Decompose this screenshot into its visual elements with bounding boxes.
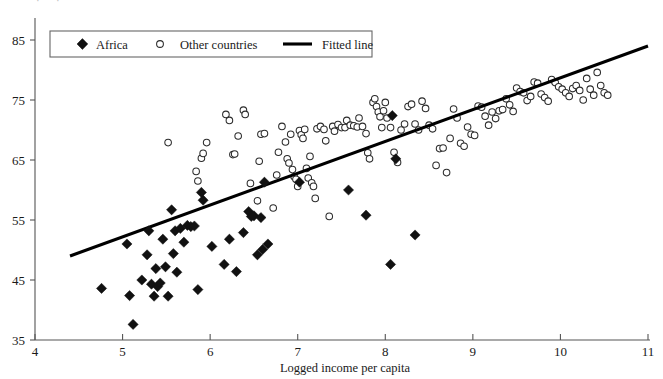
chart-page: · · 354555657585 4567891011 Logged incom… (0, 0, 663, 379)
data-point-other-country (247, 180, 254, 187)
data-point-other-country (408, 101, 415, 108)
data-point-other-country (200, 150, 207, 157)
data-point-africa (124, 291, 134, 301)
legend-marker-open-circle (157, 41, 164, 48)
data-point-other-country (326, 213, 333, 220)
data-point-other-country (223, 111, 230, 118)
data-point-other-country (310, 183, 317, 190)
data-point-africa (207, 241, 217, 251)
data-point-other-country (461, 143, 468, 150)
data-point-other-country (195, 178, 202, 185)
data-point-other-country (378, 124, 385, 131)
data-point-other-country (492, 115, 499, 122)
data-point-other-country (363, 130, 370, 137)
data-point-other-country (366, 156, 373, 163)
data-point-other-country (412, 121, 419, 128)
data-point-other-country (485, 122, 492, 129)
data-point-africa (196, 187, 206, 197)
data-point-other-country (273, 172, 280, 179)
data-point-other-country (499, 106, 506, 113)
data-point-other-country (597, 82, 604, 89)
data-point-africa (122, 239, 132, 249)
data-point-africa (198, 195, 208, 205)
axes-group (35, 18, 650, 340)
data-point-africa (128, 319, 138, 329)
y-axis-ticks: 354555657585 (12, 33, 35, 348)
data-point-other-country (286, 160, 293, 167)
x-tick-label-4: 4 (32, 344, 39, 359)
x-tick-label-10: 10 (554, 344, 567, 359)
data-point-other-country (380, 108, 387, 115)
data-point-africa (158, 234, 168, 244)
data-point-other-country (443, 169, 450, 176)
data-point-other-country (287, 131, 294, 138)
data-point-other-country (359, 123, 366, 130)
data-point-other-country (433, 162, 440, 169)
fitted-line-path (70, 46, 648, 256)
data-point-other-country (527, 93, 534, 100)
series-africa (96, 111, 420, 330)
data-point-other-country (482, 113, 489, 120)
data-point-other-country (440, 145, 447, 152)
data-point-other-country (231, 151, 238, 158)
data-point-africa (361, 210, 371, 220)
data-point-other-country (419, 98, 426, 105)
data-point-other-country (422, 105, 429, 112)
legend-label-africa: Africa (96, 38, 128, 52)
data-point-africa (167, 205, 177, 215)
data-point-other-country (254, 198, 261, 205)
data-point-africa (219, 259, 229, 269)
y-tick-label-85: 85 (12, 33, 25, 48)
x-tick-label-7: 7 (294, 344, 301, 359)
legend-label-fitted-line: Fitted line (322, 38, 373, 52)
data-point-africa (179, 237, 189, 247)
data-point-other-country (450, 106, 457, 113)
data-point-other-country (587, 86, 594, 93)
data-point-africa (149, 291, 159, 301)
x-axis-title: Logged income per capita (280, 361, 411, 375)
data-point-africa (410, 230, 420, 240)
data-point-other-country (583, 75, 590, 82)
y-tick-label-45: 45 (12, 273, 25, 288)
data-point-other-country (301, 126, 308, 133)
x-axis-ticks: 4567891011 (32, 334, 655, 359)
data-point-other-country (604, 92, 611, 99)
data-point-other-country (289, 166, 296, 173)
data-point-other-country (510, 108, 517, 115)
data-point-other-country (471, 132, 478, 139)
data-point-africa (224, 234, 234, 244)
data-point-africa (163, 291, 173, 301)
y-tick-label-75: 75 (12, 93, 25, 108)
data-point-other-country (275, 149, 282, 156)
scatter-chart: 354555657585 4567891011 Logged income pe… (0, 0, 663, 379)
data-point-other-country (371, 96, 378, 103)
data-point-other-country (382, 99, 389, 106)
data-point-other-country (307, 153, 314, 160)
y-tick-label-55: 55 (12, 213, 25, 228)
data-point-other-country (545, 98, 552, 105)
data-point-other-country (576, 87, 583, 94)
data-point-other-country (256, 158, 263, 165)
data-point-other-country (356, 115, 363, 122)
data-point-other-country (242, 111, 249, 118)
data-point-other-country (489, 109, 496, 116)
x-tick-label-8: 8 (382, 344, 389, 359)
data-point-other-country (261, 130, 268, 137)
data-point-africa (193, 285, 203, 295)
data-point-other-country (398, 127, 405, 134)
data-point-other-country (279, 123, 286, 130)
data-point-africa (151, 264, 161, 274)
data-point-other-country (331, 128, 338, 135)
data-point-other-country (321, 126, 328, 133)
data-point-other-country (203, 139, 210, 146)
data-point-other-country (165, 139, 172, 146)
data-point-other-country (447, 135, 454, 142)
data-point-africa (142, 250, 152, 260)
data-point-other-country (506, 102, 513, 109)
x-tick-label-9: 9 (470, 344, 477, 359)
data-point-other-country (226, 117, 233, 124)
data-point-other-country (377, 114, 384, 121)
data-point-africa (96, 283, 106, 293)
chart-legend[interactable]: Africa Other countries Fitted line (50, 31, 373, 57)
x-tick-label-6: 6 (207, 344, 214, 359)
